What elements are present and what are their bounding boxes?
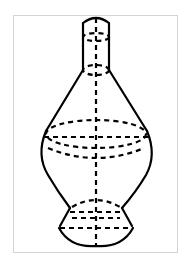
base-left-flare xyxy=(60,208,70,226)
body-upper-ellipse xyxy=(46,120,146,148)
base-right-flare xyxy=(122,208,132,226)
vase-diagram xyxy=(0,0,189,272)
